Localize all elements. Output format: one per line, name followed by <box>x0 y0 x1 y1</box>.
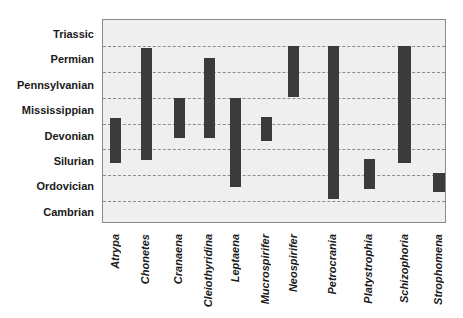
x-tick-label: Cleiothyridina <box>202 234 214 307</box>
x-tick-label: Schizophoria <box>398 234 410 303</box>
range-bar-neospirifer <box>288 46 299 97</box>
gridline <box>103 201 445 202</box>
x-tick-label: Strophomena <box>432 234 444 305</box>
range-bar-atrypa <box>110 118 121 163</box>
y-tick-label: Permian <box>51 53 94 65</box>
geologic-range-chart: TriassicPermianPennsylvanianMississippia… <box>0 0 463 318</box>
y-tick-label: Pennsylvanian <box>17 79 94 91</box>
x-tick-label: Leptaena <box>229 234 241 282</box>
x-tick-label: Cranaena <box>172 234 184 284</box>
x-tick-label: Neospirifer <box>287 234 299 292</box>
x-tick-label: Petrocrania <box>326 234 338 295</box>
range-bar-schizophoria <box>398 46 411 163</box>
range-bar-cleiothyridina <box>204 58 215 138</box>
gridline <box>103 149 445 150</box>
y-tick-label: Devonian <box>44 130 94 142</box>
gridline <box>103 46 445 47</box>
y-tick-label: Mississippian <box>22 104 94 116</box>
y-tick-label: Triassic <box>53 28 94 40</box>
range-bar-strophomena <box>433 173 445 192</box>
range-bar-mucrospirifer <box>261 117 272 141</box>
range-bar-platystrophia <box>364 159 375 189</box>
y-tick-label: Silurian <box>54 155 94 167</box>
x-tick-label: Chonetes <box>139 234 151 284</box>
y-tick-label: Ordovician <box>37 180 94 192</box>
x-tick-label: Mucrospirifer <box>259 234 271 304</box>
y-tick-label: Cambrian <box>43 206 94 218</box>
gridline <box>103 98 445 99</box>
gridline <box>103 175 445 176</box>
range-bar-chonetes <box>141 48 152 160</box>
gridline <box>103 72 445 73</box>
range-bar-cranaena <box>174 98 185 138</box>
range-bar-leptaena <box>230 98 241 187</box>
gridline <box>103 124 445 125</box>
x-tick-label: Atrypa <box>109 234 121 269</box>
plot-area <box>102 19 446 223</box>
range-bar-petrocrania <box>328 46 339 199</box>
x-tick-label: Platystrophia <box>362 234 374 304</box>
